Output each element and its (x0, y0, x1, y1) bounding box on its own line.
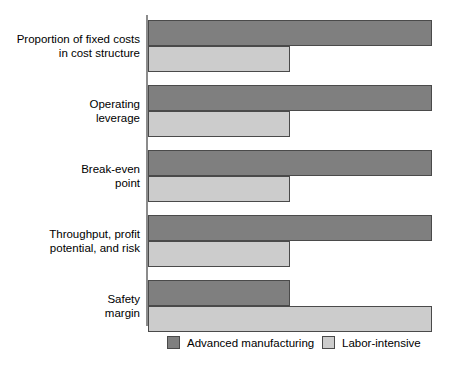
bar-advanced-manufacturing-4 (148, 215, 432, 241)
legend-swatch-labor-intensive (322, 336, 335, 349)
legend-item-labor-intensive: Labor-intensive (322, 336, 421, 349)
legend-item-advanced-manufacturing: Advanced manufacturing (167, 336, 314, 349)
category-label-proportion-of-fixed-costs: Proportion of fixed costs in cost struct… (0, 32, 140, 60)
bar-advanced-manufacturing-3 (148, 150, 432, 176)
bar-advanced-manufacturing-5 (148, 280, 290, 306)
category-label-safety-margin: Safety margin (0, 292, 140, 320)
bar-advanced-manufacturing-2 (148, 85, 432, 111)
bar-labor-intensive-5 (148, 306, 432, 332)
bar-labor-intensive-3 (148, 176, 290, 202)
legend-swatch-advanced-manufacturing (167, 336, 180, 349)
chart-legend: Advanced manufacturing Labor-intensive (0, 336, 450, 356)
category-label-break-even-point: Break-even point (0, 162, 140, 190)
legend-label-advanced-manufacturing: Advanced manufacturing (187, 337, 314, 349)
bar-advanced-manufacturing-1 (148, 20, 432, 46)
bar-chart: Proportion of fixed costs in cost struct… (0, 0, 450, 380)
category-label-operating-leverage: Operating leverage (0, 97, 140, 125)
legend-label-labor-intensive: Labor-intensive (342, 337, 421, 349)
bar-labor-intensive-4 (148, 241, 290, 267)
bar-labor-intensive-1 (148, 46, 290, 72)
bar-labor-intensive-2 (148, 111, 290, 137)
category-label-throughput-profit-potential-and-risk: Throughput, profit potential, and risk (0, 227, 140, 255)
